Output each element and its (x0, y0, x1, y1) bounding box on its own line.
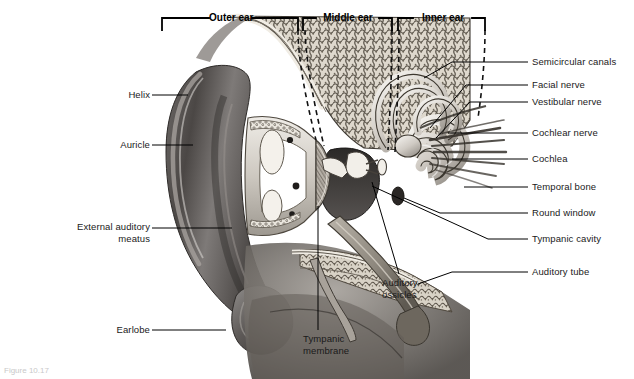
label-round-window: Round window (532, 207, 596, 219)
label-tympanic-membrane: Tympanic membrane (303, 333, 349, 356)
label-helix: Helix (68, 89, 150, 101)
label-semicircular-canals: Semicircular canals (532, 56, 616, 68)
label-external-auditory-meatus: External auditory meatus (40, 221, 150, 244)
label-cochlea: Cochlea (532, 153, 568, 165)
label-earlobe: Earlobe (60, 324, 150, 336)
region-label-middle-ear: Middle ear (316, 12, 380, 23)
leader-round-window (404, 198, 528, 213)
bracket-outer-ear-left (162, 18, 209, 30)
label-vestibular-nerve: Vestibular nerve (532, 96, 602, 108)
label-auditory-ossicles: Auditory ossicles (382, 277, 418, 300)
ear-anatomy-figure: Outer ear Middle ear Inner ear Helix Aur… (0, 0, 634, 379)
label-temporal-bone: Temporal bone (532, 181, 596, 193)
leader-auditory-tube (418, 272, 528, 284)
bracket-inner-ear-right (472, 18, 485, 30)
label-auditory-tube: Auditory tube (532, 266, 589, 278)
label-auricle: Auricle (60, 139, 150, 151)
label-facial-nerve: Facial nerve (532, 79, 585, 91)
label-tympanic-cavity: Tympanic cavity (532, 233, 601, 245)
region-label-outer-ear: Outer ear (209, 12, 253, 23)
region-label-inner-ear: Inner ear (413, 12, 473, 23)
figure-caption: Figure 10.17 (4, 366, 49, 375)
divider-inner-right (478, 30, 485, 118)
label-cochlear-nerve: Cochlear nerve (532, 127, 598, 139)
